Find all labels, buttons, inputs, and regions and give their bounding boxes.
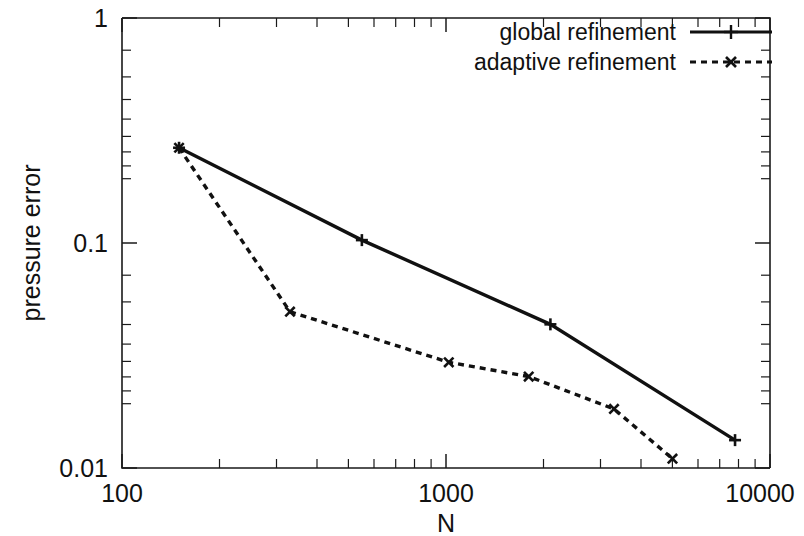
legend-swatch-adaptive — [690, 57, 772, 67]
x-tick-label-right: 10000 — [725, 479, 795, 507]
chart-figure: 1 0.1 0.01 100 1000 10000 pressure error… — [0, 0, 804, 536]
y-axis-title: pressure error — [17, 165, 45, 322]
data-point-marker — [356, 234, 368, 246]
legend-label-global: global refinement — [500, 19, 677, 45]
series-line — [179, 148, 735, 440]
chart-canvas: 1 0.1 0.01 100 1000 10000 pressure error… — [0, 0, 804, 536]
data-series-group — [173, 142, 741, 464]
y-tick-label-top: 1 — [94, 4, 108, 32]
series-line — [179, 148, 672, 459]
x-axis-title: N — [437, 509, 455, 536]
y-tick-label-bottom: 0.01 — [59, 454, 108, 482]
series-global-refinement — [173, 142, 741, 446]
series-adaptive-refinement — [174, 143, 677, 463]
legend-swatch-global — [690, 25, 772, 39]
x-tick-label-mid: 1000 — [418, 479, 474, 507]
y-tick-label-mid: 0.1 — [73, 229, 108, 257]
x-tick-label-left: 100 — [101, 479, 143, 507]
legend: global refinement adaptive refinement — [474, 19, 772, 75]
legend-label-adaptive: adaptive refinement — [474, 49, 677, 75]
